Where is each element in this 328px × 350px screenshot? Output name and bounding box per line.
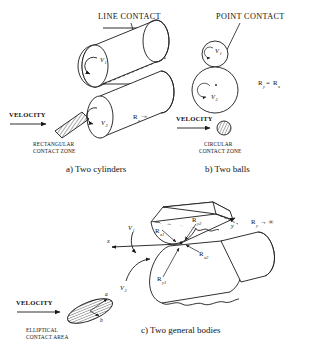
label-ry-sub-general: y: [255, 223, 259, 228]
caption-b: b) Two balls: [205, 164, 250, 174]
label-radius-y-value-cylinder: =∞: [141, 114, 148, 119]
heading-point-contact: POINT CONTACT: [216, 12, 285, 21]
label-rx2-sub: x2: [203, 255, 209, 260]
label-rx1-sub: x1: [159, 232, 164, 237]
label-semi-axis-a: a: [105, 291, 108, 297]
label-eq-ball: =: [266, 79, 270, 86]
zone-label-c-line2: CONTACT AREA: [26, 334, 68, 340]
label-rx-sub-ball: x: [277, 84, 280, 89]
velocity-label-b: VELOCITY: [176, 115, 213, 122]
zone-label-a-line1: RECTANGULAR: [33, 141, 75, 147]
label-v1-sub-cylinder: 1: [105, 60, 107, 65]
ball-small: [202, 41, 228, 67]
rotation-arrow-v2-general: [126, 259, 150, 281]
axis-y-label: y: [230, 222, 234, 229]
zone-label-a-line2: CONTACT ZONE: [33, 148, 76, 154]
label-v1-sub-ball: 1: [220, 51, 222, 56]
label-v2-sub-general: 2: [125, 288, 128, 293]
elliptical-contact-area: [64, 294, 115, 329]
rotation-arrow-v1-general: [131, 232, 136, 253]
heading-line-contact: LINE CONTACT: [98, 12, 161, 21]
label-v1-sub-general: 1: [133, 228, 135, 233]
label-ry2-sub: y2: [196, 221, 202, 226]
caption-c: c) Two general bodies: [141, 325, 221, 335]
axis-x-label: x: [106, 237, 110, 244]
contact-mechanics-figure: LINE CONTACT V 1 V 2 R y =∞ VELOCITY: [0, 0, 328, 350]
caption-a: a) Two cylinders: [66, 164, 127, 174]
ball-large: [192, 67, 238, 113]
circular-contact-zone: [217, 121, 231, 135]
zone-label-c-line1: ELLIPTICAL: [26, 327, 58, 333]
label-semi-axis-b: b: [100, 317, 103, 323]
ball-center-dot: [215, 84, 217, 86]
label-ry-value-general: → ∞: [260, 218, 273, 225]
label-ry1-sub: y1: [161, 280, 166, 285]
zone-label-b-line1: CIRCULAR: [204, 141, 233, 147]
velocity-label-a: VELOCITY: [9, 111, 46, 118]
zone-label-b-line2: CONTACT ZONE: [199, 148, 242, 154]
velocity-label-c: VELOCITY: [16, 299, 53, 306]
rectangular-contact-zone: [55, 112, 89, 138]
